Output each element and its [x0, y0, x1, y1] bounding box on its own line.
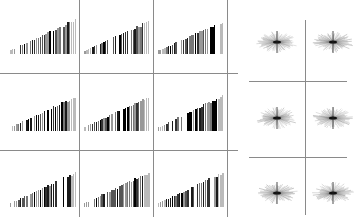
bar	[158, 203, 159, 207]
bar	[142, 23, 143, 54]
bar	[100, 196, 101, 207]
bar	[28, 119, 29, 131]
bar	[75, 19, 76, 54]
bar	[177, 117, 178, 131]
bar	[53, 184, 54, 207]
bar	[84, 203, 85, 207]
bar	[115, 36, 116, 54]
bar	[125, 32, 126, 54]
bar	[92, 124, 93, 131]
bar	[55, 107, 56, 131]
bar	[20, 45, 21, 54]
bar	[138, 178, 139, 207]
starburst	[310, 180, 356, 206]
bar	[49, 186, 50, 207]
bar	[168, 122, 169, 131]
bar-panel	[84, 95, 150, 131]
bar	[197, 184, 198, 207]
bar	[111, 114, 113, 131]
bar	[160, 50, 161, 54]
bar	[10, 203, 11, 207]
bar	[34, 116, 35, 131]
bar	[90, 124, 91, 131]
bar	[125, 108, 126, 131]
bar	[42, 35, 43, 54]
bar	[51, 109, 52, 131]
bar-panel	[10, 95, 77, 131]
bar	[115, 112, 116, 131]
bar	[146, 98, 147, 131]
bar	[103, 118, 104, 131]
bar	[136, 26, 137, 54]
bar	[123, 184, 124, 207]
bar	[18, 124, 19, 131]
bar	[216, 99, 217, 131]
bar	[166, 199, 167, 207]
bar	[63, 177, 64, 207]
bar	[45, 187, 46, 207]
bar	[86, 202, 87, 207]
bar	[214, 25, 215, 54]
bar	[71, 22, 72, 54]
bar	[193, 35, 194, 54]
bar	[47, 32, 48, 54]
bar	[36, 38, 37, 54]
bar	[168, 46, 169, 54]
grid-line-vertical	[79, 0, 80, 217]
bar	[47, 110, 48, 131]
bar	[40, 114, 41, 131]
bar	[34, 192, 35, 207]
bar	[22, 45, 23, 54]
bar	[162, 201, 163, 207]
bar	[183, 40, 184, 54]
bar	[14, 49, 15, 54]
bar	[148, 173, 150, 207]
grid-line-horizontal	[0, 150, 238, 151]
bar	[44, 111, 45, 131]
bar	[175, 42, 176, 54]
bar	[136, 179, 137, 207]
bar	[26, 196, 28, 207]
bar	[34, 40, 35, 54]
bar	[26, 43, 28, 54]
grid-line-vertical	[305, 20, 306, 215]
bar	[138, 102, 139, 131]
bar	[148, 98, 149, 131]
bar	[123, 33, 124, 54]
bar	[195, 33, 196, 54]
bar	[174, 43, 175, 54]
bar	[30, 41, 31, 54]
bar	[45, 34, 46, 54]
bar	[158, 127, 159, 131]
bar	[88, 125, 89, 131]
bar	[16, 201, 17, 207]
bar	[205, 29, 206, 54]
grid-line-vertical	[227, 0, 228, 217]
bar	[168, 199, 169, 207]
starburst	[310, 29, 356, 55]
bar	[57, 106, 58, 131]
bar	[107, 40, 108, 54]
bar	[49, 31, 51, 54]
bar	[59, 105, 60, 131]
starburst	[254, 29, 300, 55]
bar	[94, 122, 95, 131]
bar	[172, 121, 174, 131]
bar	[179, 193, 180, 207]
bar	[53, 106, 54, 131]
bar	[94, 46, 95, 54]
bar	[73, 174, 74, 207]
bar	[88, 49, 89, 54]
bar	[207, 29, 208, 54]
bar	[117, 189, 118, 207]
bar	[84, 127, 86, 131]
bar	[187, 38, 188, 54]
bar	[193, 187, 194, 207]
bar	[22, 121, 23, 131]
bar	[30, 118, 32, 131]
bar	[47, 185, 48, 207]
grid-line-vertical	[153, 0, 154, 217]
bar	[121, 34, 122, 54]
bar	[73, 22, 74, 54]
bar	[32, 40, 33, 54]
